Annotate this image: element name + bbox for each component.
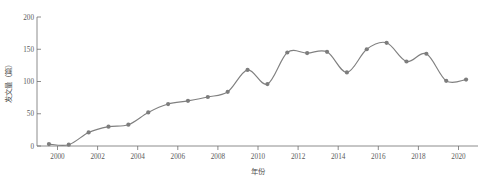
x-tick-label: 2008 xyxy=(211,153,226,161)
x-tick-label: 2002 xyxy=(90,153,105,161)
x-axis-title: 年份 xyxy=(251,167,266,176)
y-tick-label: 100 xyxy=(23,78,34,86)
x-tick-label: 2016 xyxy=(371,153,386,161)
x-axis-ticks xyxy=(58,146,459,150)
data-point xyxy=(245,68,249,72)
data-point xyxy=(166,102,170,106)
data-point xyxy=(106,125,110,129)
x-tick-label: 2014 xyxy=(331,153,346,161)
data-point xyxy=(385,41,389,45)
data-point xyxy=(424,52,428,56)
data-point xyxy=(47,142,51,146)
x-axis-tick-labels: 2000 2002 2004 2006 2008 2010 2012 2014 … xyxy=(50,153,466,161)
data-point xyxy=(265,82,269,86)
data-point xyxy=(87,130,91,134)
x-tick-label: 2020 xyxy=(451,153,466,161)
data-point xyxy=(186,99,190,103)
x-tick-label: 2010 xyxy=(251,153,266,161)
y-tick-label: 0 xyxy=(30,143,34,151)
data-point xyxy=(345,70,349,74)
x-tick-label: 2000 xyxy=(50,153,65,161)
data-point xyxy=(206,95,210,99)
data-point xyxy=(146,110,150,114)
data-point xyxy=(305,51,309,55)
x-tick-label: 2012 xyxy=(291,153,306,161)
line-chart: 200 150 100 50 0 2000 2002 2004 2006 xyxy=(0,0,482,189)
data-point xyxy=(126,123,130,127)
data-point xyxy=(67,143,71,147)
data-point xyxy=(464,77,468,81)
x-tick-label: 2004 xyxy=(131,153,146,161)
data-point xyxy=(444,79,448,83)
data-point xyxy=(226,90,230,94)
data-point xyxy=(285,50,289,54)
y-axis-ticks xyxy=(37,17,41,146)
y-axis-tick-labels: 200 150 100 50 0 xyxy=(23,14,34,151)
chart-figure: 200 150 100 50 0 2000 2002 2004 2006 xyxy=(0,0,482,189)
y-tick-label: 200 xyxy=(23,14,34,22)
y-tick-label: 150 xyxy=(23,46,34,54)
data-point xyxy=(404,59,408,63)
data-point xyxy=(325,50,329,54)
y-axis-title: 发文量（篇） xyxy=(4,61,13,103)
x-tick-label: 2018 xyxy=(411,153,426,161)
series-line-fawenliang xyxy=(49,42,466,145)
y-tick-label: 50 xyxy=(27,110,35,118)
data-point xyxy=(365,47,369,51)
x-tick-label: 2006 xyxy=(171,153,186,161)
series-markers xyxy=(47,41,468,147)
